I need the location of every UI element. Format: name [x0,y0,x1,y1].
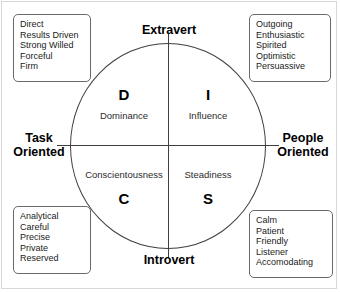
trait-item: Results Driven [20,30,84,41]
horizontal-axis-line [71,145,265,146]
trait-item: Analytical [20,211,84,222]
vertical-axis-line [168,44,169,248]
quadrant-letter-s: S [178,190,238,207]
trait-item: Strong Willed [20,40,84,51]
trait-item: Firm [20,61,84,72]
trait-item: Persuassive [256,61,324,72]
axis-label-people-line1: People [268,131,338,145]
trait-item: Optimistic [256,51,324,62]
axis-label-task-oriented: Task Oriented [6,131,72,159]
axis-label-introvert: Introvert [128,253,210,267]
quadrant-letter-i: I [178,86,238,103]
axis-label-people-oriented: People Oriented [268,131,338,159]
trait-box-conscientousness: Analytical Careful Precise Private Reser… [13,206,91,274]
quadrant-letter-d: D [94,86,154,103]
trait-item: Patient [256,226,326,237]
trait-item: Outgoing [256,19,324,30]
trait-box-steadiness: Calm Patient Friendly Listener Accomodat… [249,210,333,278]
quadrant-name-conscientousness: Conscientousness [76,169,172,180]
quadrant-name-influence: Influence [160,110,256,121]
axis-label-extravert: Extravert [128,23,210,37]
trait-item: Direct [20,19,84,30]
trait-item: Careful [20,222,84,233]
trait-item: Spirited [256,40,324,51]
trait-item: Private [20,243,84,254]
trait-item: Reserved [20,253,84,264]
trait-item: Enthusiastic [256,30,324,41]
trait-box-dominance: Direct Results Driven Strong Willed Forc… [13,14,91,82]
axis-label-people-line2: Oriented [268,145,338,159]
axis-label-task-line2: Oriented [6,145,72,159]
trait-item: Calm [256,215,326,226]
quadrant-letter-c: C [94,190,154,207]
trait-item: Precise [20,232,84,243]
disc-diagram: Extravert Introvert Task Oriented People… [0,0,340,292]
quadrant-name-dominance: Dominance [76,110,172,121]
trait-item: Accomodating [256,257,326,268]
trait-box-influence: Outgoing Enthusiastic Spirited Optimisti… [249,14,331,82]
axis-label-task-line1: Task [6,131,72,145]
trait-item: Listener [256,247,326,258]
trait-item: Forceful [20,51,84,62]
quadrant-name-steadiness: Steadiness [160,169,256,180]
trait-item: Friendly [256,236,326,247]
